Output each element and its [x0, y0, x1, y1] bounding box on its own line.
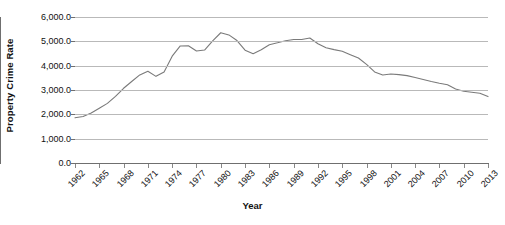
y-axis-tick-labels: 0.01,000.02,000.03,000.04,000.05,000.06,… — [18, 0, 74, 180]
x-axis-tick-label: 1965 — [90, 168, 111, 189]
plot-area — [75, 17, 488, 163]
x-axis-tick-label: 2007 — [430, 168, 451, 189]
x-axis-tick-label: 2010 — [455, 168, 476, 189]
gridline — [75, 90, 488, 91]
y-axis-title-text: Property Crime Rate — [5, 38, 16, 132]
property-crime-rate-line-chart: Property Crime Rate 0.01,000.02,000.03,0… — [0, 0, 505, 225]
x-axis-tick-label: 2013 — [479, 168, 500, 189]
x-axis-tick-label: 2004 — [406, 168, 427, 189]
x-axis-tick-label: 1971 — [139, 168, 160, 189]
gridline — [75, 66, 488, 67]
y-axis-tick-label: 2,000.0 — [41, 109, 71, 119]
gridline — [75, 41, 488, 42]
gridline — [75, 114, 488, 115]
y-axis-tick-label: 3,000.0 — [41, 85, 71, 95]
x-axis-tick-label: 1998 — [357, 168, 378, 189]
x-axis-tick-label: 1962 — [66, 168, 87, 189]
x-axis-tick-label: 1989 — [284, 168, 305, 189]
x-axis-tick-label: 1983 — [236, 168, 257, 189]
y-axis-title: Property Crime Rate — [0, 0, 20, 170]
gridline — [75, 17, 488, 18]
x-axis-tick-label: 2001 — [382, 168, 403, 189]
y-axis-line — [0, 17, 1, 164]
y-axis-tick-label: 5,000.0 — [41, 36, 71, 46]
series-polyline — [75, 33, 488, 118]
x-axis-tick-label: 1992 — [309, 168, 330, 189]
y-axis-tick-label: 1,000.0 — [41, 134, 71, 144]
y-axis-tick-label: 6,000.0 — [41, 12, 71, 22]
x-axis-tick-label: 1974 — [163, 168, 184, 189]
x-axis-title: Year — [0, 200, 505, 211]
x-axis-tick-labels: 1962196519681971197419771980198319861989… — [0, 168, 505, 202]
y-axis-tick-label: 4,000.0 — [41, 61, 71, 71]
x-axis-tick-label: 1977 — [187, 168, 208, 189]
x-axis-tick-label: 1980 — [212, 168, 233, 189]
x-axis-tick-label: 1995 — [333, 168, 354, 189]
x-axis-tick-label: 1968 — [114, 168, 135, 189]
gridline — [75, 139, 488, 140]
x-axis-tick-label: 1986 — [260, 168, 281, 189]
